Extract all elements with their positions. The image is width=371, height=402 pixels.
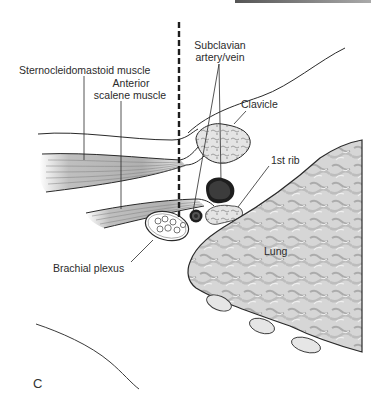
label-anterior-scalene-line1: Anterior <box>100 77 162 89</box>
label-anterior-scalene-line2: scalene muscle <box>90 89 170 101</box>
fascia-line <box>38 129 198 140</box>
label-subclavian-line1: Subclavian <box>190 39 250 51</box>
label-lung: Lung <box>264 245 287 257</box>
label-brachial-plexus: Brachial plexus <box>53 262 124 274</box>
body-contour-lower <box>36 324 139 389</box>
panel-letter: C <box>33 376 42 391</box>
clavicle-bone <box>196 124 250 164</box>
label-sternocleidomastoid: Sternocleidomastoid muscle <box>19 64 150 76</box>
anatomy-diagram <box>0 0 371 402</box>
label-subclavian-line2: artery/vein <box>190 51 250 63</box>
label-clavicle: Clavicle <box>241 98 278 110</box>
sternocleidomastoid-muscle <box>39 154 186 192</box>
subclavian-vein <box>206 178 234 204</box>
scm-to-clavicle <box>180 145 200 160</box>
subclavian-artery <box>190 210 203 223</box>
label-first-rib: 1st rib <box>271 154 300 166</box>
